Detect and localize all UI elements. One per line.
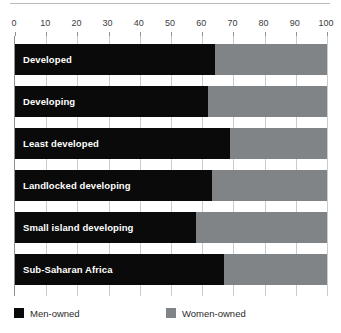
bar-row: Landlocked developing [15,170,327,201]
bar-segment-women-owned [208,86,327,117]
legend-swatch-women-owned-icon [166,308,176,318]
x-tick-label-80: 80 [259,18,269,29]
tickmark-30 [109,32,110,36]
tickmark-100 [327,32,328,36]
tickmark-90 [296,32,297,36]
bar-segment-women-owned [196,212,327,243]
bar-segment-women-owned [215,44,327,75]
tickmark-0 [15,32,16,36]
bar-row: Developed [15,44,327,75]
x-axis-tick-labels: 0102030405060708090100 [0,18,341,30]
bar-row: Small island developing [15,212,327,243]
tickmark-80 [265,32,266,36]
legend-label-women-owned: Women-owned [182,308,246,319]
x-tick-label-90: 90 [290,18,300,29]
x-tick-label-50: 50 [165,18,175,29]
tickmark-70 [233,32,234,36]
tickmark-60 [202,32,203,36]
bar-segment-women-owned [212,170,327,201]
bar-category-label: Least developed [23,128,99,159]
x-tick-label-30: 30 [103,18,113,29]
legend-label-men-owned: Men-owned [30,308,80,319]
top-divider [10,3,330,4]
x-tick-label-60: 60 [196,18,206,29]
bar-row: Developing [15,86,327,117]
tickmark-10 [46,32,47,36]
legend-item-women-owned: Women-owned [166,306,246,320]
gridline-100 [327,36,328,296]
bar-category-label: Developing [23,86,75,117]
x-tick-label-40: 40 [134,18,144,29]
tickmark-20 [77,32,78,36]
x-tick-label-10: 10 [40,18,50,29]
chart-legend: Men-owned Women-owned [14,306,334,322]
tickmark-50 [171,32,172,36]
bar-category-label: Landlocked developing [23,170,131,201]
x-tick-label-70: 70 [227,18,237,29]
stacked-bar-chart: 0102030405060708090100 DevelopedDevelopi… [0,0,341,333]
bar-row: Least developed [15,128,327,159]
bar-segment-women-owned [224,254,327,285]
bar-category-label: Sub-Saharan Africa [23,254,113,285]
x-tick-label-20: 20 [71,18,81,29]
tickmark-40 [140,32,141,36]
bar-category-label: Small island developing [23,212,134,243]
x-tick-label-0: 0 [11,18,16,29]
legend-swatch-men-owned-icon [14,308,24,318]
bar-category-label: Developed [23,44,72,75]
bar-row: Sub-Saharan Africa [15,254,327,285]
bar-segment-women-owned [230,128,327,159]
x-tick-label-100: 100 [318,18,333,29]
legend-item-men-owned: Men-owned [14,306,80,320]
plot-area: DevelopedDevelopingLeast developedLandlo… [14,36,327,296]
